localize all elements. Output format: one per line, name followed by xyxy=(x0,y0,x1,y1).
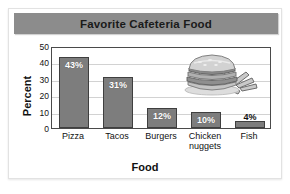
bar[interactable]: 10% xyxy=(191,112,221,128)
x-axis-ticks: PizzaTacosBurgersChicken nuggetsFish xyxy=(51,131,271,159)
y-tick-label: 0 xyxy=(27,125,49,134)
y-tick-label: 40 xyxy=(27,59,49,68)
bar-value-label: 43% xyxy=(65,60,83,70)
y-axis-ticks: 50403020100 xyxy=(25,47,49,129)
bar-slot: 10% xyxy=(184,48,228,128)
bar[interactable]: 4% xyxy=(235,121,265,128)
plot-area: 43%31%12%10%4% xyxy=(51,47,271,129)
y-tick-label: 30 xyxy=(27,76,49,85)
bar-slot: 31% xyxy=(96,48,140,128)
y-tick-label: 20 xyxy=(27,92,49,101)
bar-value-label: 12% xyxy=(153,111,171,121)
x-tick-label: Fish xyxy=(227,131,271,141)
x-tick-label: Burgers xyxy=(139,131,183,141)
x-axis-title: Food xyxy=(9,161,281,173)
bar-value-label: 4% xyxy=(243,112,256,122)
bar-slot: 12% xyxy=(140,48,184,128)
bar-slot: 4% xyxy=(228,48,272,128)
bar[interactable]: 43% xyxy=(59,57,89,128)
bar-value-label: 10% xyxy=(197,115,215,125)
bar-series: 43%31%12%10%4% xyxy=(52,48,270,128)
bar-slot: 43% xyxy=(52,48,96,128)
chart-title-band: Favorite Cafeteria Food xyxy=(14,13,278,34)
chart-title: Favorite Cafeteria Food xyxy=(80,18,212,30)
bar[interactable]: 31% xyxy=(103,77,133,128)
x-tick-label: Pizza xyxy=(51,131,95,141)
y-tick-label: 50 xyxy=(27,43,49,52)
x-tick-label: Chicken nuggets xyxy=(183,131,227,151)
bar[interactable]: 12% xyxy=(147,108,177,128)
x-tick-label: Tacos xyxy=(95,131,139,141)
chart-card: Favorite Cafeteria Food Percent 50403020… xyxy=(8,8,282,179)
y-tick-label: 10 xyxy=(27,109,49,118)
bar-value-label: 31% xyxy=(109,80,127,90)
